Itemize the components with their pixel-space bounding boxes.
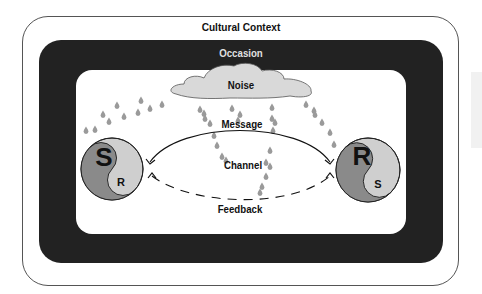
svg-text:S: S	[95, 142, 112, 172]
feedback-label: Feedback	[212, 203, 268, 215]
svg-text:R: R	[353, 141, 372, 171]
cultural-context-label: Cultural Context	[197, 21, 285, 33]
svg-text:S: S	[374, 178, 381, 190]
occasion-label: Occasion	[206, 47, 276, 59]
svg-text:R: R	[117, 176, 125, 188]
receiver-sender-right-icon: R S	[323, 136, 402, 215]
message-label: Message	[214, 118, 270, 130]
feedback-arrowhead-left-icon	[148, 173, 156, 178]
feedback-arrowhead-right-icon	[326, 173, 334, 178]
feedback-arrow	[152, 176, 330, 200]
diagram-graphics: S R R S	[0, 0, 482, 294]
message-arrow	[150, 131, 330, 163]
sender-receiver-left-icon: S R	[68, 136, 145, 213]
channel-label: Channel	[215, 159, 271, 171]
noise-label: Noise	[223, 79, 258, 91]
